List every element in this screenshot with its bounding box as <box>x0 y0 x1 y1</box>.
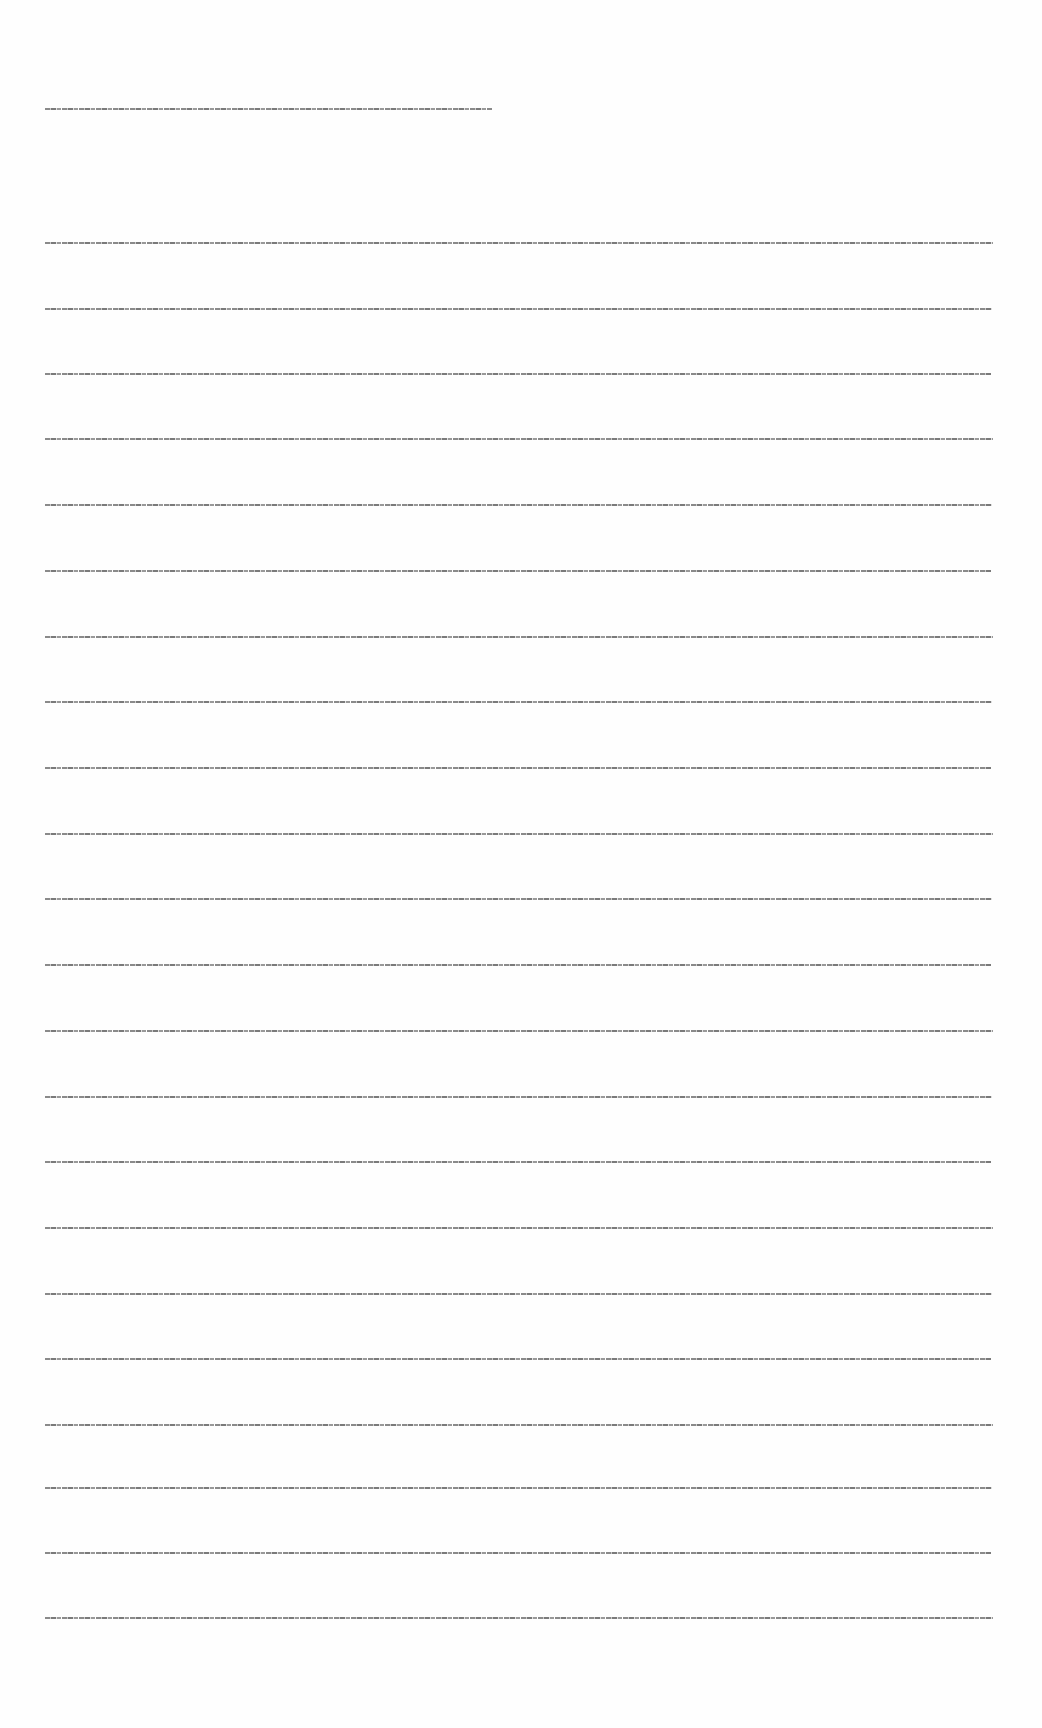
text-line: [illegible micro-text line 16] <box>45 1227 993 1229</box>
text-line: [illegible micro-text line 12] <box>45 964 991 966</box>
text-line: [illegible micro-text line 9] <box>45 767 991 769</box>
text-line: [illegible micro-text line 5] <box>45 504 992 506</box>
header-text-line: [illegible micro-text header line] <box>45 108 492 110</box>
text-line: [illegible micro-text line 3] <box>45 373 991 375</box>
text-line: [illegible micro-text line 11] <box>45 898 992 900</box>
text-line: [illegible micro-text line 21] <box>45 1552 991 1554</box>
text-line: [illegible micro-text line 1] <box>45 242 993 244</box>
text-line: [illegible micro-text line 14] <box>45 1096 992 1098</box>
text-line: [illegible micro-text line 4] <box>45 438 993 440</box>
text-line: [illegible micro-text line 17] <box>45 1293 992 1295</box>
text-line: [illegible micro-text line 10] <box>45 833 993 835</box>
text-line: [illegible micro-text line 13] <box>45 1030 993 1032</box>
document-page: [illegible micro-text header line] [ille… <box>0 0 1042 1728</box>
text-line: [illegible micro-text line 22] <box>45 1617 993 1619</box>
text-line: [illegible micro-text line 19] <box>45 1424 993 1426</box>
text-line: [illegible micro-text line 15] <box>45 1161 991 1163</box>
text-line: [illegible micro-text line 6] <box>45 570 991 572</box>
text-line: [illegible micro-text line 18] <box>45 1358 991 1360</box>
text-line: [illegible micro-text line 20] <box>45 1487 992 1489</box>
text-line: [illegible micro-text line 8] <box>45 701 992 703</box>
text-line: [illegible micro-text line 2] <box>45 308 992 310</box>
text-line: [illegible micro-text line 7] <box>45 636 993 638</box>
